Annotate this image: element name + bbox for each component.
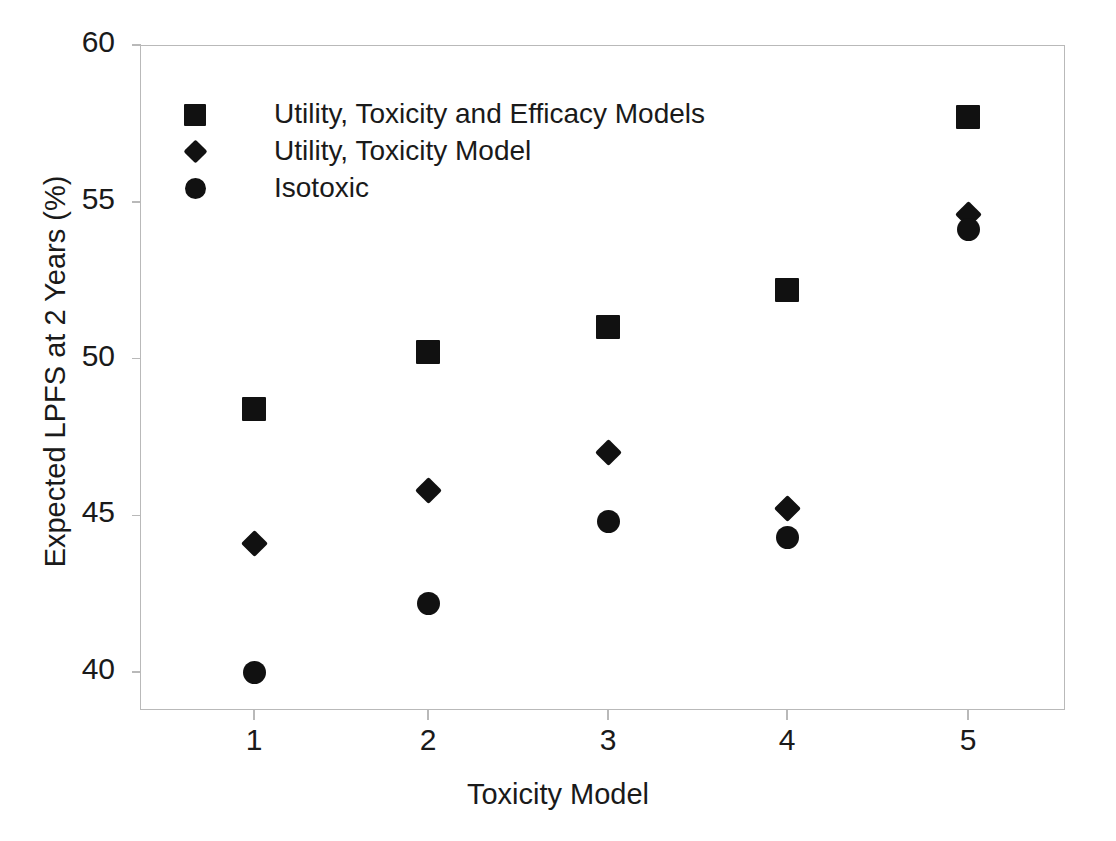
y-tick-mark xyxy=(132,358,141,360)
data-point-square xyxy=(242,397,266,421)
y-axis-title: Expected LPFS at 2 Years (%) xyxy=(39,112,72,632)
data-point-square xyxy=(596,315,620,339)
legend-diamond-icon xyxy=(178,133,212,170)
x-tick-mark xyxy=(253,710,255,720)
legend-label: Isotoxic xyxy=(274,170,369,206)
y-tick-label-40: 40 xyxy=(45,652,115,686)
y-tick-mark xyxy=(132,671,141,673)
legend-item-diamond: Utility, Toxicity Model xyxy=(178,133,818,170)
legend-item-circle: Isotoxic xyxy=(178,170,818,207)
data-point-circle xyxy=(957,218,980,241)
data-point-square xyxy=(956,105,980,129)
x-tick-label-3: 3 xyxy=(578,723,638,757)
x-tick-label-2: 2 xyxy=(398,723,458,757)
x-tick-mark xyxy=(427,710,429,720)
data-point-square xyxy=(775,278,799,302)
x-axis-title: Toxicity Model xyxy=(0,778,1116,811)
legend-marker-glyph xyxy=(184,104,206,126)
y-tick-mark xyxy=(132,44,141,46)
y-tick-mark xyxy=(132,201,141,203)
x-tick-mark xyxy=(786,710,788,720)
y-tick-label-60: 60 xyxy=(45,25,115,59)
legend-label: Utility, Toxicity and Efficacy Models xyxy=(274,96,705,132)
x-tick-mark xyxy=(967,710,969,720)
legend-label: Utility, Toxicity Model xyxy=(274,133,531,169)
legend-circle-icon xyxy=(178,170,212,207)
data-point-circle xyxy=(417,592,440,615)
legend: Utility, Toxicity and Efficacy ModelsUti… xyxy=(178,96,818,207)
legend-item-square: Utility, Toxicity and Efficacy Models xyxy=(178,96,818,133)
x-tick-label-5: 5 xyxy=(938,723,998,757)
data-point-circle xyxy=(597,510,620,533)
x-tick-label-1: 1 xyxy=(224,723,284,757)
legend-marker-glyph xyxy=(185,178,206,199)
legend-marker-glyph xyxy=(183,139,207,163)
data-point-square xyxy=(416,340,440,364)
legend-square-icon xyxy=(178,96,212,133)
data-point-circle xyxy=(243,661,266,684)
data-point-circle xyxy=(776,526,799,549)
y-tick-mark xyxy=(132,515,141,517)
chart-page: 6055504540 12345 Expected LPFS at 2 Year… xyxy=(0,0,1116,841)
x-tick-label-4: 4 xyxy=(757,723,817,757)
x-tick-mark xyxy=(607,710,609,720)
